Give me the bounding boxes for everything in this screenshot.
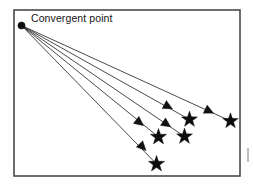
convergent-point-dot bbox=[18, 22, 25, 29]
page-edge-artifact bbox=[247, 148, 249, 162]
figure-canvas: Convergent point bbox=[0, 0, 253, 188]
convergent-point-diagram: Convergent point bbox=[0, 0, 253, 188]
diagram-frame bbox=[14, 10, 240, 176]
convergent-point-label: Convergent point bbox=[31, 12, 113, 24]
